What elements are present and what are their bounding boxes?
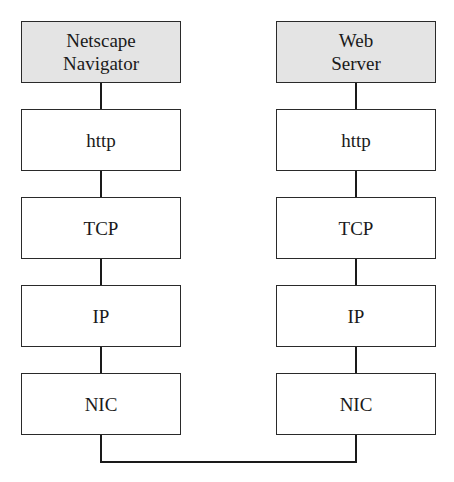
navigator-label: Navigator bbox=[63, 52, 139, 75]
web-server-box: Web Server bbox=[276, 21, 436, 83]
server-nic-layer: NIC bbox=[276, 373, 436, 435]
client-tcp-layer: TCP bbox=[21, 197, 181, 259]
nic-label: NIC bbox=[340, 393, 373, 416]
netscape-label: Netscape bbox=[63, 29, 139, 52]
tcp-label: TCP bbox=[84, 217, 119, 240]
server-http-layer: http bbox=[276, 109, 436, 171]
nic-label: NIC bbox=[85, 393, 118, 416]
tcp-label: TCP bbox=[339, 217, 374, 240]
client-nic-layer: NIC bbox=[21, 373, 181, 435]
client-connector-2 bbox=[100, 171, 102, 197]
client-http-layer: http bbox=[21, 109, 181, 171]
client-connector-4 bbox=[100, 347, 102, 373]
web-label: Web bbox=[331, 29, 381, 52]
server-label: Server bbox=[331, 52, 381, 75]
server-connector-1 bbox=[355, 83, 357, 109]
client-nic-drop bbox=[100, 435, 102, 463]
client-connector-3 bbox=[100, 259, 102, 285]
netscape-navigator-box: Netscape Navigator bbox=[21, 21, 181, 83]
client-ip-layer: IP bbox=[21, 285, 181, 347]
ip-label: IP bbox=[348, 305, 365, 328]
server-nic-drop bbox=[355, 435, 357, 463]
server-ip-layer: IP bbox=[276, 285, 436, 347]
ip-label: IP bbox=[93, 305, 110, 328]
http-label: http bbox=[341, 129, 371, 152]
server-connector-2 bbox=[355, 171, 357, 197]
physical-link-line bbox=[100, 461, 357, 463]
server-connector-3 bbox=[355, 259, 357, 285]
http-label: http bbox=[86, 129, 116, 152]
client-connector-1 bbox=[100, 83, 102, 109]
server-connector-4 bbox=[355, 347, 357, 373]
server-tcp-layer: TCP bbox=[276, 197, 436, 259]
